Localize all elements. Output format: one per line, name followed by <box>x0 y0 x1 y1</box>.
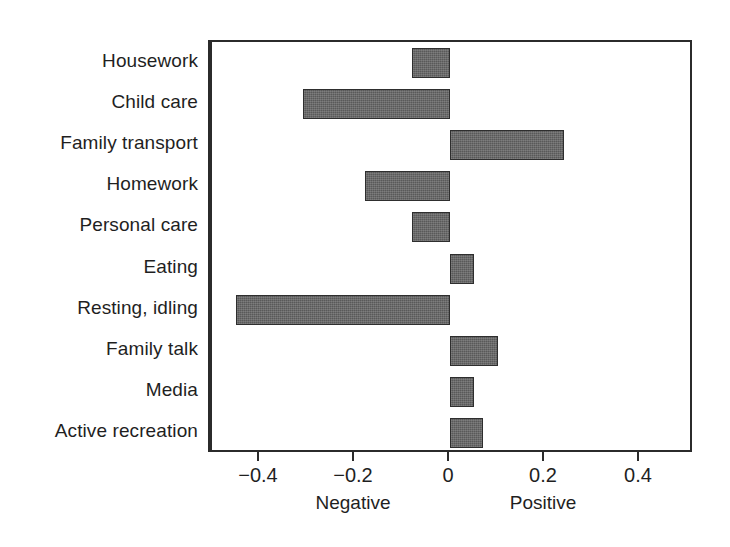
x-axis-tick <box>447 452 449 461</box>
category-label: Resting, idling <box>0 298 198 317</box>
category-label: Media <box>0 380 198 399</box>
category-axis-labels: HouseworkChild careFamily transportHomew… <box>0 40 198 452</box>
bar <box>450 336 498 366</box>
category-label: Personal care <box>0 215 198 234</box>
category-label: Active recreation <box>0 421 198 440</box>
x-axis-tick-label: −0.2 <box>333 464 372 486</box>
x-axis-tick <box>637 452 639 461</box>
category-label: Homework <box>0 174 198 193</box>
bar <box>450 254 474 284</box>
plot-frame <box>208 40 692 452</box>
bar <box>450 130 564 160</box>
zero-reference-line <box>210 42 212 450</box>
bar-chart-figure: HouseworkChild careFamily transportHomew… <box>0 0 730 547</box>
category-label: Family transport <box>0 133 198 152</box>
bar <box>450 418 483 448</box>
plot-area <box>210 42 690 450</box>
category-label: Eating <box>0 257 198 276</box>
x-axis-tick-label: 0.2 <box>529 464 557 486</box>
bar <box>412 212 450 242</box>
axis-caption: Positive <box>510 492 577 513</box>
x-axis-tick <box>257 452 259 461</box>
x-axis-tick-label: −0.4 <box>238 464 277 486</box>
x-axis-tick <box>542 452 544 461</box>
bar <box>412 48 450 78</box>
bar <box>303 89 450 119</box>
category-label: Family talk <box>0 339 198 358</box>
x-axis-tick-label: 0.4 <box>624 464 652 486</box>
bar <box>365 171 451 201</box>
x-axis-tick-label: 0 <box>442 464 453 486</box>
category-label: Child care <box>0 92 198 111</box>
bar <box>236 295 450 325</box>
bar <box>450 377 474 407</box>
axis-caption: Negative <box>316 492 391 513</box>
x-axis-tick <box>352 452 354 461</box>
category-label: Housework <box>0 51 198 70</box>
